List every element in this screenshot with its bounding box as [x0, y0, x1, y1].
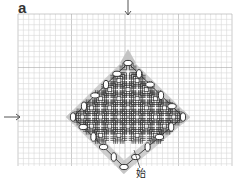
oval-stitch — [79, 124, 87, 129]
center-mark — [127, 116, 130, 119]
oval-stitch — [169, 123, 174, 131]
start-label: 始 — [136, 168, 146, 180]
oval-stitch — [146, 82, 154, 87]
oval-stitch — [70, 113, 75, 121]
oval-stitch — [158, 91, 163, 99]
oval-stitch — [81, 102, 86, 110]
oval-stitch — [145, 143, 150, 151]
oval-stitch — [99, 144, 107, 149]
oval-stitch — [103, 80, 108, 88]
oval-stitch — [168, 104, 176, 109]
left-entry-arrow-icon — [4, 114, 20, 120]
panel-label: a — [18, 0, 26, 15]
oval-stitch — [180, 113, 185, 121]
top-entry-arrow-icon — [125, 0, 131, 15]
oval-stitch — [91, 133, 96, 141]
graph-grid — [18, 14, 232, 166]
oval-stitch — [111, 153, 116, 161]
oval-stitch — [124, 60, 132, 65]
oval-stitch — [120, 164, 128, 169]
oval-stitch — [155, 134, 163, 139]
oval-stitch — [113, 71, 121, 76]
stitch-diagram — [0, 0, 245, 184]
oval-stitch — [91, 93, 99, 98]
oval-stitch — [136, 70, 141, 78]
